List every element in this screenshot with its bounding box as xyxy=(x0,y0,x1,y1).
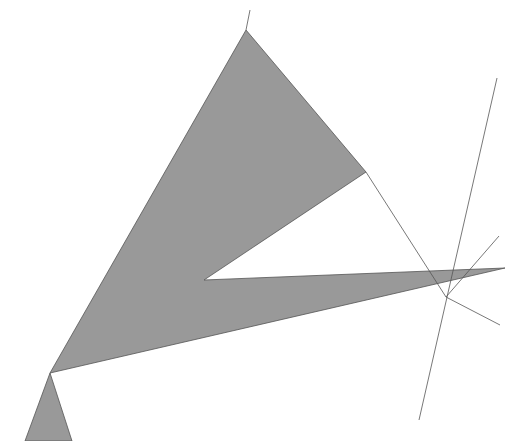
geometry-figure-canvas: Geometric figure: shaded concave polygon… xyxy=(0,0,515,441)
